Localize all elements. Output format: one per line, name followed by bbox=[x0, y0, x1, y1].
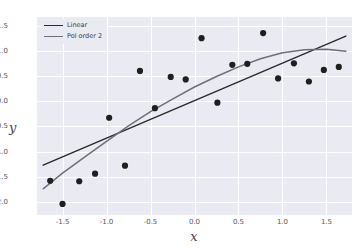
scatter-point bbox=[275, 75, 281, 81]
scatter-point bbox=[214, 100, 220, 106]
y-tick-label: 0.5 bbox=[0, 72, 8, 80]
scatter-point bbox=[137, 68, 143, 74]
legend-label: Pol order 2 bbox=[67, 32, 102, 41]
series-line bbox=[43, 36, 346, 165]
scatter-point bbox=[76, 178, 82, 184]
legend-item[interactable]: Pol order 2 bbox=[44, 32, 102, 41]
scatter-point bbox=[92, 171, 98, 177]
series-line bbox=[43, 49, 346, 189]
x-axis-label: x bbox=[190, 229, 197, 244]
x-tick-label: 0.0 bbox=[189, 218, 200, 226]
scatter-point bbox=[47, 178, 53, 184]
scatter-point bbox=[183, 76, 189, 82]
y-tick-label: -2.0 bbox=[0, 198, 8, 206]
scatter-point bbox=[122, 163, 128, 169]
x-tick-label: 1.5 bbox=[321, 218, 332, 226]
scatter-point bbox=[244, 61, 250, 67]
scatter-point bbox=[321, 67, 327, 73]
scatter-point bbox=[260, 30, 266, 36]
scatter-point bbox=[198, 35, 204, 41]
scatter-point bbox=[59, 201, 65, 207]
y-tick-label: 0.0 bbox=[0, 97, 8, 105]
legend-line-swatch bbox=[44, 36, 63, 37]
series-layer bbox=[43, 36, 346, 189]
x-tick-label: -0.5 bbox=[144, 218, 158, 226]
y-axis-label: y bbox=[9, 120, 16, 135]
scatter-point bbox=[168, 74, 174, 80]
plot-area bbox=[37, 17, 352, 215]
x-tick-label: -1.5 bbox=[56, 218, 70, 226]
y-tick-label: -0.5 bbox=[0, 122, 8, 130]
scatter-point bbox=[106, 115, 112, 121]
scatter-point bbox=[291, 60, 297, 66]
y-tick-label: -1.5 bbox=[0, 173, 8, 181]
x-tick-label: 1.0 bbox=[277, 218, 288, 226]
y-tick-label: 1.5 bbox=[0, 22, 8, 30]
legend-line-swatch bbox=[44, 25, 63, 26]
y-tick-label: 1.0 bbox=[0, 47, 8, 55]
scatter-point bbox=[229, 62, 235, 68]
legend-item[interactable]: Linear bbox=[44, 21, 102, 30]
chart-legend: LinearPol order 2 bbox=[41, 19, 107, 44]
chart-svg bbox=[37, 17, 352, 215]
scatter-point bbox=[336, 64, 342, 70]
scatter-point bbox=[152, 105, 158, 111]
x-tick-label: 0.5 bbox=[233, 218, 244, 226]
figure-canvas: -2.0-1.5-1.0-0.50.00.51.01.5 -1.5-1.0-0.… bbox=[0, 0, 364, 250]
y-tick-label: -1.0 bbox=[0, 148, 8, 156]
x-tick-label: -1.0 bbox=[100, 218, 114, 226]
legend-label: Linear bbox=[67, 21, 87, 30]
scatter-point bbox=[306, 78, 312, 84]
